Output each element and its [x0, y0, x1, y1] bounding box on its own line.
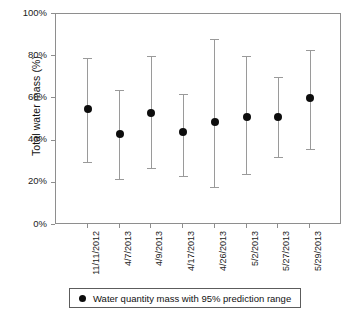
error-bar	[214, 39, 215, 187]
x-axis-tick-label: 5/29/2013	[309, 173, 319, 231]
data-point	[274, 113, 282, 121]
error-bar-upper-cap	[83, 58, 92, 59]
data-point	[84, 105, 92, 113]
y-axis-tick-label: 20%	[28, 175, 47, 186]
x-axis-tick-label: 5/27/2013	[277, 173, 287, 231]
y-axis-tick-mark	[51, 224, 55, 225]
error-bar-upper-cap	[115, 90, 124, 91]
error-bar-lower-cap	[274, 157, 283, 158]
legend-marker-icon	[79, 295, 86, 302]
data-point	[211, 118, 219, 126]
chart-figure: Total water mass (%) 0%20%40%60%80%100% …	[0, 0, 357, 319]
legend-label: Water quantity mass with 95% prediction …	[93, 293, 291, 304]
x-axis-tick-label: 4/7/2013	[119, 173, 129, 231]
error-bar-upper-cap	[179, 94, 188, 95]
y-axis-tick-label: 60%	[28, 91, 47, 102]
data-point	[306, 94, 314, 102]
chart-legend: Water quantity mass with 95% prediction …	[69, 288, 301, 308]
data-point	[179, 128, 187, 136]
error-bar-upper-cap	[242, 56, 251, 57]
x-axis-tick-label: 11/11/2012	[87, 173, 97, 231]
x-axis-tick-label: 4/26/2013	[214, 173, 224, 231]
error-bar-lower-cap	[147, 168, 156, 169]
data-point	[243, 113, 251, 121]
y-axis-tick-label: 0%	[33, 218, 47, 229]
x-axis-tick-label: 4/17/2013	[182, 173, 192, 231]
plot-area	[55, 13, 341, 224]
y-axis-tick-label: 40%	[28, 133, 47, 144]
error-bar-upper-cap	[274, 77, 283, 78]
error-bar-upper-cap	[210, 39, 219, 40]
x-axis-tick-label: 5/2/2013	[246, 173, 256, 231]
data-point	[147, 109, 155, 117]
error-bar-lower-cap	[83, 162, 92, 163]
y-axis-tick-label: 80%	[28, 49, 47, 60]
error-bar-upper-cap	[147, 56, 156, 57]
x-axis-tick-label: 4/9/2013	[150, 173, 160, 231]
error-bar-lower-cap	[306, 149, 315, 150]
data-point	[116, 130, 124, 138]
error-bar-upper-cap	[306, 50, 315, 51]
y-axis-tick-label: 100%	[23, 7, 47, 18]
